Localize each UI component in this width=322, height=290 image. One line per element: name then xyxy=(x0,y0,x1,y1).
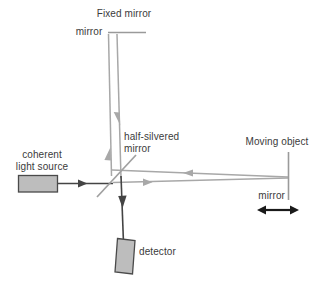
label-coherent-light-source: coherent light source xyxy=(4,149,80,173)
beam-to-detector xyxy=(118,176,126,243)
motion-arrow-right-head xyxy=(290,205,299,214)
motion-arrow-left-head xyxy=(257,205,266,214)
source-beam-arrowhead xyxy=(78,180,88,188)
half-silvered-mirror-glyph xyxy=(97,155,136,197)
label-detector: detector xyxy=(139,246,195,258)
label-half-silvered-mirror: half-silvered mirror xyxy=(124,131,196,155)
interferometer-diagram: Fixed mirror mirror half-silvered mirror… xyxy=(0,0,322,290)
beam-source-to-splitter xyxy=(57,180,113,188)
beam-down-from-fixed-mirror xyxy=(114,34,121,178)
detector-box xyxy=(115,239,135,275)
coherent-light-source-box xyxy=(19,176,58,193)
motion-double-arrow xyxy=(257,205,299,214)
beam-up-to-fixed-mirror xyxy=(104,34,111,176)
label-moving-object-mirror: mirror xyxy=(243,190,285,202)
detector-beam-arrowhead xyxy=(118,196,126,208)
beam-to-moving-object xyxy=(113,178,288,186)
label-fixed-mirror: Fixed mirror xyxy=(79,8,169,20)
label-moving-object: Moving object xyxy=(234,136,320,148)
beam-up-arrowhead xyxy=(104,147,111,161)
beam-from-moving-object xyxy=(112,169,288,177)
label-top-mirror: mirror xyxy=(67,26,111,38)
return-beam-arrowhead xyxy=(183,169,193,176)
outbound-beam-arrowhead xyxy=(143,179,153,187)
beam-down-arrowhead xyxy=(114,112,121,126)
